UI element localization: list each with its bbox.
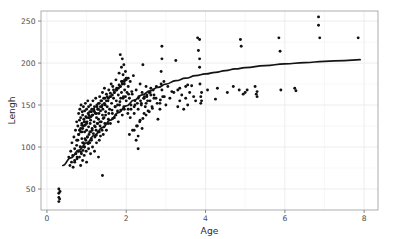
data-point [357,36,360,39]
data-point [76,125,79,128]
data-point [159,99,162,102]
data-point [144,105,147,108]
data-point [279,88,282,91]
y-tick-label: 200 [21,59,36,68]
data-point [139,83,142,86]
data-point [239,38,242,41]
data-point [95,112,98,115]
data-point [86,136,89,139]
data-point [103,97,106,100]
data-point [94,125,97,128]
data-point [69,150,72,153]
data-point [116,104,119,107]
data-point [105,99,108,102]
data-point [57,188,60,191]
data-point [72,136,75,139]
data-point [73,161,76,164]
scatter-plot-chart: 02468 50100150200250 Age Lengh [0,0,395,239]
x-tick-label: 8 [362,214,367,223]
data-point [240,45,243,48]
data-point [73,147,76,150]
data-point [122,63,125,66]
data-point [176,105,179,108]
data-point [168,97,171,100]
data-point [79,116,82,119]
data-point [141,91,144,94]
data-point [120,91,123,94]
data-point [111,85,114,88]
data-point [194,99,197,102]
data-point [84,137,87,140]
data-point [127,77,130,80]
data-point [182,108,185,111]
data-point [94,97,97,100]
data-point [89,104,92,107]
data-point [255,93,258,96]
data-point [130,90,133,93]
data-point [85,161,88,164]
data-point [199,95,202,98]
data-point [160,45,163,48]
data-point [110,83,113,86]
data-point [244,91,247,94]
data-point [132,74,135,77]
data-point [170,90,173,93]
data-point [131,93,134,96]
data-point [124,70,127,73]
y-tick-label: 150 [21,101,36,110]
data-point [86,99,89,102]
data-point [145,102,148,105]
data-point [140,102,143,105]
data-point [103,87,106,90]
data-point [156,102,159,105]
data-point [199,83,202,86]
data-point [101,91,104,94]
data-point [246,88,249,91]
data-point [85,150,88,153]
data-point [75,120,78,123]
data-point [68,164,71,167]
data-point [80,130,83,133]
data-point [141,127,144,130]
data-point [77,133,80,136]
data-point [79,164,82,167]
data-point [115,87,118,90]
data-point [198,66,201,69]
data-point [137,135,140,138]
data-point [118,83,121,86]
data-point [149,94,152,97]
data-point [91,146,94,149]
data-point [317,15,320,18]
data-point [277,36,280,39]
data-point [102,133,105,136]
data-point [96,122,99,125]
data-point [121,114,124,117]
data-point [120,66,123,69]
data-point [97,118,100,121]
y-tick-label: 50 [26,185,36,194]
data-point [80,124,83,127]
data-point [88,114,91,117]
x-tick-label: 2 [124,214,129,223]
x-tick-label: 4 [203,214,208,223]
data-point [78,119,81,122]
data-point [112,97,115,100]
data-point [74,129,77,132]
data-point [133,112,136,115]
data-point [160,88,163,91]
data-point [120,80,123,83]
data-point [190,84,193,87]
data-point [109,92,112,95]
data-point [98,95,101,98]
data-point [131,129,134,132]
data-point [75,139,78,142]
data-point [87,125,90,128]
data-point [117,120,120,123]
data-point [85,108,88,111]
data-point [142,97,145,100]
data-point [93,150,96,153]
data-point [103,102,106,105]
data-point [238,88,241,91]
data-point [178,99,181,102]
data-point [128,97,131,100]
